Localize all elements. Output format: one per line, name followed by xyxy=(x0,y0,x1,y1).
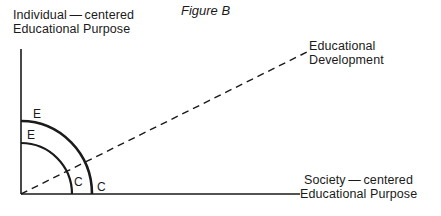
outer-arc-bottom-label: C xyxy=(97,180,106,194)
diagram-canvas: E E C C xyxy=(0,0,441,216)
inner-arc xyxy=(21,143,72,194)
development-dashed-line xyxy=(21,52,307,194)
inner-arc-bottom-label: C xyxy=(74,175,83,189)
outer-arc-top-label: E xyxy=(33,107,41,121)
inner-arc-top-label: E xyxy=(27,128,35,142)
